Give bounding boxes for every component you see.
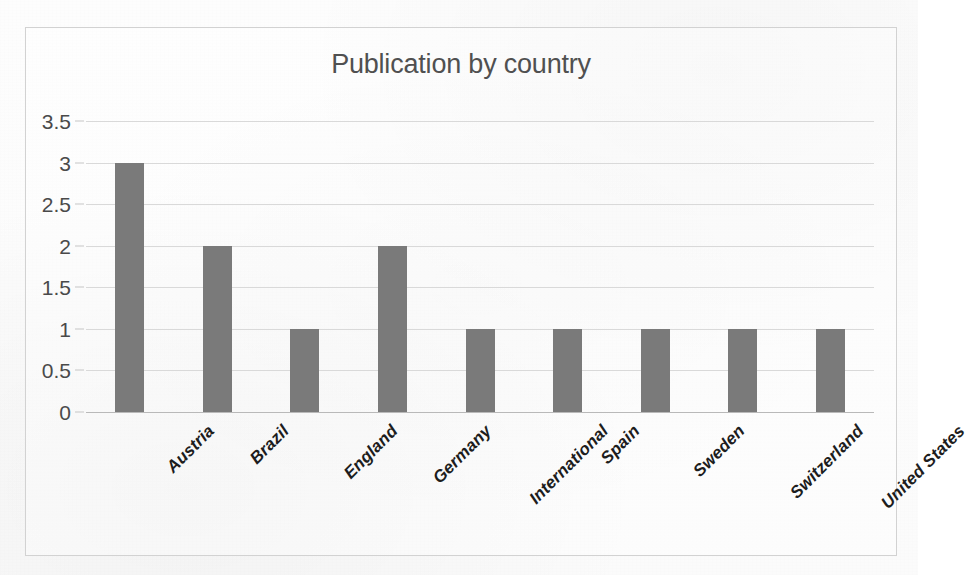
x-axis-label-international: International — [526, 422, 612, 508]
y-axis-tick-mark — [75, 245, 84, 246]
y-axis-tick-label: 1.5 — [42, 277, 71, 298]
bar-united-states — [816, 329, 845, 412]
x-axis-label-england: England — [341, 422, 402, 483]
bar-spain — [553, 329, 582, 412]
x-axis-label-brazil: Brazil — [247, 422, 293, 468]
bar-england — [290, 329, 319, 412]
y-axis-tick-mark — [75, 412, 84, 413]
gridline — [86, 412, 874, 413]
bar-brazil — [203, 246, 232, 412]
x-axis-label-austria: Austria — [163, 422, 218, 477]
y-axis-tick-mark — [75, 162, 84, 163]
y-axis-tick-label: 2 — [59, 235, 71, 256]
bar-austria — [115, 163, 144, 412]
plot-area: 00.511.522.533.5 AustriaBrazilEnglandGer… — [86, 121, 874, 412]
chart-frame: Publication by country 00.511.522.533.5 … — [25, 27, 897, 556]
y-axis-tick-mark — [75, 328, 84, 329]
x-axis-label-switzerland: Switzerland — [787, 422, 867, 502]
x-axis-label-sweden: Sweden — [690, 422, 749, 481]
bar-germany — [378, 246, 407, 412]
y-axis-tick-mark — [75, 204, 84, 205]
bar-sweden — [641, 329, 670, 412]
y-axis-tick-mark — [75, 287, 84, 288]
bar-series — [86, 121, 874, 412]
x-axis-label-united-states: United States — [878, 422, 968, 512]
y-axis-tick-label: 2.5 — [42, 194, 71, 215]
y-axis-tick-mark — [75, 121, 84, 122]
bar-switzerland — [728, 329, 757, 412]
y-axis-tick-label: 0 — [59, 402, 71, 423]
y-axis-tick-label: 3.5 — [42, 111, 71, 132]
x-axis-label-germany: Germany — [430, 422, 495, 487]
chart-title: Publication by country — [26, 48, 896, 80]
y-axis-tick-label: 3 — [59, 152, 71, 173]
y-axis-tick-label: 1 — [59, 318, 71, 339]
y-axis-tick-label: 0.5 — [42, 360, 71, 381]
bar-international — [466, 329, 495, 412]
y-axis-tick-mark — [75, 370, 84, 371]
